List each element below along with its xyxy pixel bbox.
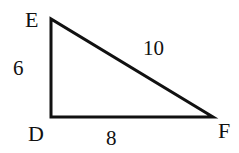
- triangle-def: [51, 19, 213, 117]
- side-length-ef: 10: [143, 36, 164, 60]
- vertex-label-e: E: [25, 7, 38, 32]
- vertex-label-f: F: [218, 118, 230, 143]
- triangle-diagram: E D F 6 8 10: [0, 0, 239, 153]
- vertex-label-d: D: [28, 121, 44, 146]
- side-length-df: 8: [106, 126, 117, 150]
- side-length-ed: 6: [13, 56, 24, 80]
